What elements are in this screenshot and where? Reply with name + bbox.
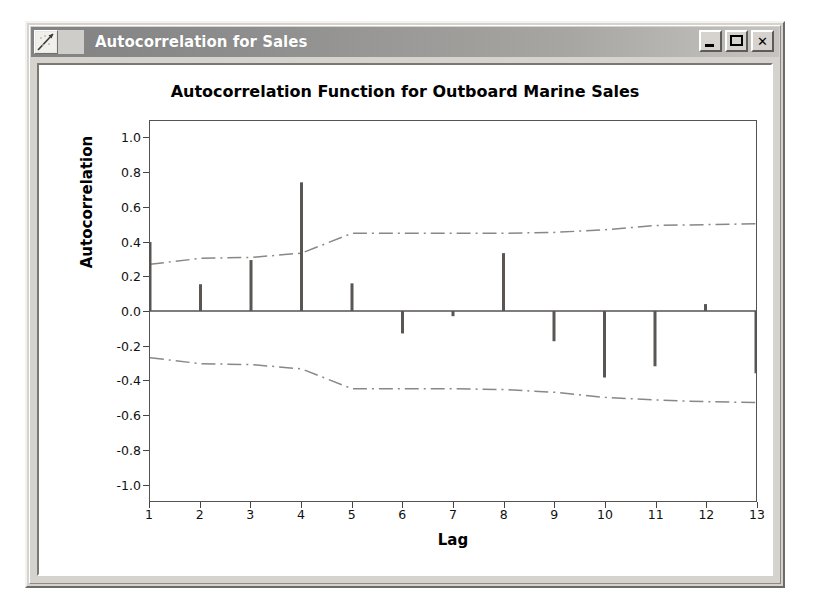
x-tick-label: 13 (742, 507, 772, 522)
close-button[interactable]: ✕ (751, 30, 774, 52)
y-tick-label: -0.2 (95, 338, 141, 353)
y-tick-label: 0.8 (95, 165, 141, 180)
y-tick-label: -0.6 (95, 408, 141, 423)
upper-confidence-line (150, 224, 756, 265)
application-window: Autocorrelation for Sales ✕ Autocorrelat… (25, 21, 785, 588)
x-tick-mark (706, 502, 707, 508)
y-tick-label: -0.4 (95, 373, 141, 388)
window-title: Autocorrelation for Sales (95, 33, 307, 51)
x-tick-label: 7 (438, 507, 468, 522)
x-tick-mark (554, 502, 555, 508)
x-tick-label: 4 (286, 507, 316, 522)
x-tick-mark (656, 502, 657, 508)
x-tick-label: 12 (691, 507, 721, 522)
x-tick-mark (757, 502, 758, 508)
line-chart-icon (34, 30, 58, 54)
confidence-limit-line (150, 224, 756, 265)
window-controls: ✕ (699, 30, 774, 52)
x-tick-mark (149, 502, 150, 508)
x-tick-mark (250, 502, 251, 508)
autocorrelation-stems (150, 182, 756, 377)
x-tick-label: 6 (387, 507, 417, 522)
y-tick-label: 0.4 (95, 234, 141, 249)
y-tick-label: -1.0 (95, 477, 141, 492)
maximize-button[interactable] (725, 30, 748, 52)
y-tick-label: 0.0 (95, 304, 141, 319)
x-tick-label: 9 (539, 507, 569, 522)
x-tick-mark (504, 502, 505, 508)
confidence-limit-line (150, 358, 756, 403)
x-tick-label: 8 (489, 507, 519, 522)
x-tick-label: 3 (235, 507, 265, 522)
y-tick-label: 1.0 (95, 130, 141, 145)
x-tick-label: 5 (337, 507, 367, 522)
minimize-icon (705, 44, 714, 47)
autocorrelation-plot (150, 121, 756, 501)
x-tick-label: 10 (590, 507, 620, 522)
x-tick-label: 1 (134, 507, 164, 522)
close-icon: ✕ (753, 32, 772, 50)
x-tick-mark (605, 502, 606, 508)
y-tick-label: 0.6 (95, 199, 141, 214)
title-bar-spacer (58, 30, 84, 54)
x-tick-mark (352, 502, 353, 508)
maximize-icon (730, 35, 743, 46)
plot-area (149, 120, 757, 502)
y-tick-label: -0.8 (95, 442, 141, 457)
x-tick-mark (301, 502, 302, 508)
x-axis-title: Lag (149, 531, 757, 549)
x-tick-mark (453, 502, 454, 508)
y-axis-title: Autocorrelation (78, 92, 96, 312)
minimize-button[interactable] (699, 30, 722, 52)
chart-title: Autocorrelation Function for Outboard Ma… (39, 82, 771, 101)
chart-client-area: Autocorrelation Function for Outboard Ma… (37, 63, 773, 576)
lower-confidence-line (150, 358, 756, 403)
x-tick-label: 2 (185, 507, 215, 522)
title-bar[interactable]: Autocorrelation for Sales ✕ (31, 27, 779, 57)
x-tick-label: 11 (641, 507, 671, 522)
x-tick-mark (200, 502, 201, 508)
x-tick-mark (402, 502, 403, 508)
y-tick-label: 0.2 (95, 269, 141, 284)
